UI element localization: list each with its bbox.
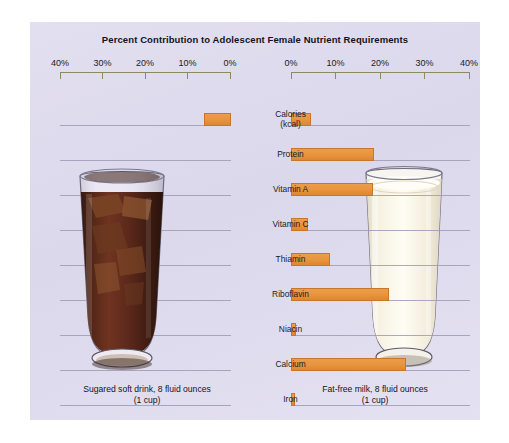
caption-milk: Fat-free milk, 8 fluid ounces (1 cup) [280, 384, 470, 406]
caption-soft-drink: Sugared soft drink, 8 fluid ounces (1 cu… [52, 384, 242, 406]
left-tick-label-0: 0% [223, 58, 236, 68]
bar-soft-drink-calories-kcal [204, 113, 231, 126]
nutrient-label: Vitamin C [260, 219, 321, 229]
left-tick-0 [230, 72, 231, 79]
nutrient-label: Calories(kcal) [260, 109, 321, 129]
nutrient-label: Protein [260, 149, 321, 159]
nutrient-label-column: Calories(kcal)ProteinVitamin AVitamin CT… [260, 79, 321, 379]
chart-title: Percent Contribution to Adolescent Femal… [30, 34, 480, 45]
right-tick-20 [380, 72, 381, 79]
left-tick-20 [145, 72, 146, 79]
right-tick-label-30: 30% [415, 58, 433, 68]
right-tick-0 [291, 72, 292, 79]
caption-soft-drink-line1: Sugared soft drink, 8 fluid ounces [52, 384, 242, 395]
left-tick-30 [102, 72, 103, 79]
right-tick-30 [424, 72, 425, 79]
left-tick-40 [60, 72, 61, 79]
nutrient-label: Calcium [260, 359, 321, 369]
right-tick-label-0: 0% [284, 58, 297, 68]
right-tick-label-40: 40% [460, 58, 478, 68]
figure-root: Percent Contribution to Adolescent Femal… [0, 0, 509, 443]
nutrient-label: Thiamin [260, 254, 321, 264]
left-axis-tick-labels: 40% 30% 20% 10% 0% [60, 58, 230, 70]
nutrient-label: Riboflavin [260, 289, 321, 299]
right-tick-label-10: 10% [326, 58, 344, 68]
left-tick-label-40: 40% [51, 58, 69, 68]
left-tick-label-20: 20% [136, 58, 154, 68]
caption-milk-line2: (1 cup) [280, 395, 470, 406]
nutrient-label-line: Calories [260, 109, 321, 119]
nutrient-label-line: (kcal) [260, 119, 321, 129]
right-tick-10 [335, 72, 336, 79]
left-tick-label-10: 10% [178, 58, 196, 68]
caption-soft-drink-line2: (1 cup) [52, 395, 242, 406]
right-tick-40 [469, 72, 470, 79]
left-tick-10 [187, 72, 188, 79]
right-axis-tick-labels: 0% 10% 20% 30% 40% [291, 58, 469, 70]
right-tick-label-20: 20% [371, 58, 389, 68]
chart-panel: Percent Contribution to Adolescent Femal… [30, 22, 480, 420]
nutrient-label: Niacin [260, 324, 321, 334]
cola-glass-image [72, 168, 172, 373]
left-tick-label-30: 30% [93, 58, 111, 68]
gridline-row [60, 160, 231, 161]
caption-milk-line1: Fat-free milk, 8 fluid ounces [280, 384, 470, 395]
nutrient-label: Vitamin A [260, 184, 321, 194]
